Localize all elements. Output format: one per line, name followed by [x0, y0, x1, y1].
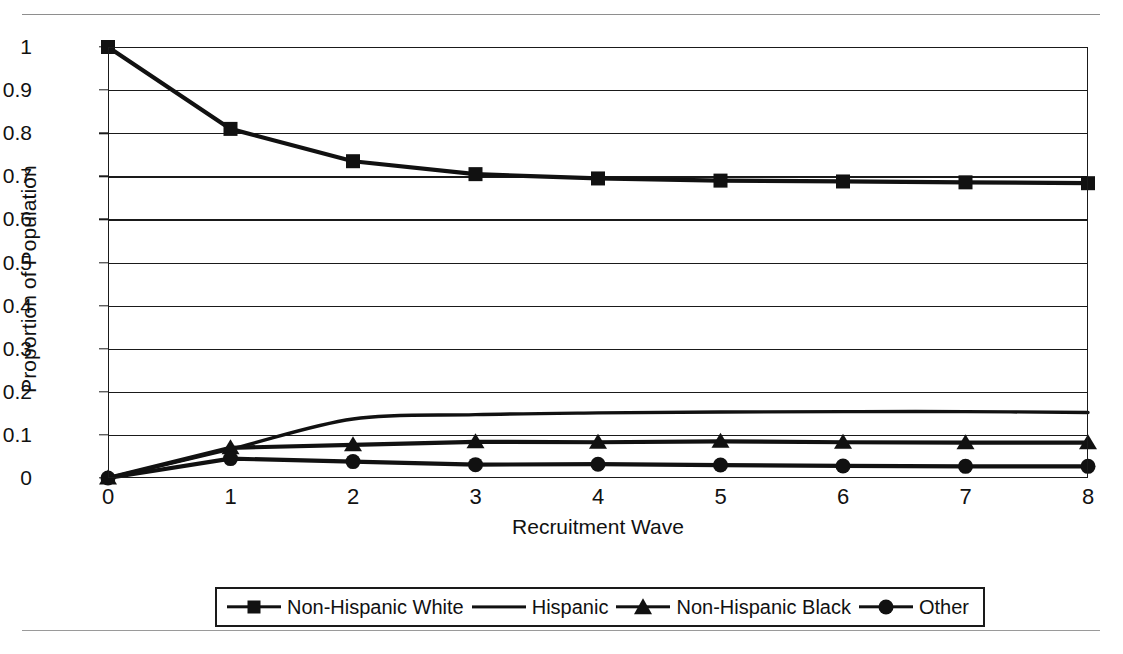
x-axis-tick-label: 2 [323, 484, 383, 510]
x-axis-tick-label: 6 [813, 484, 873, 510]
series-line [108, 47, 1088, 183]
legend-key-square-icon [225, 596, 283, 618]
y-axis-tick-label: 0.5 [0, 251, 32, 275]
y-axis-tick-label: 0.2 [0, 380, 32, 404]
data-point-marker [713, 458, 728, 473]
page-rule-top [22, 14, 1100, 15]
data-point-marker [836, 174, 850, 188]
x-axis-tick-label: 1 [201, 484, 261, 510]
data-point-marker [468, 457, 483, 472]
data-point-marker [714, 174, 728, 188]
y-axis-tick-label: 0.4 [0, 294, 32, 318]
y-axis-tick-label: 0.6 [0, 207, 32, 231]
series-other [101, 451, 1096, 485]
x-axis-tick-label: 4 [568, 484, 628, 510]
y-axis-tick-label: 0.7 [0, 164, 32, 188]
y-axis-tick-mark [99, 434, 108, 435]
triangle-marker-icon [634, 598, 652, 614]
data-point-marker [1081, 459, 1096, 474]
y-axis-tick-mark [99, 348, 108, 349]
line-chart: Proportion of Population Recruitment Wav… [0, 20, 1123, 620]
x-axis-tick-label: 8 [1058, 484, 1118, 510]
series-paths [108, 47, 1088, 478]
y-axis-tick-mark [99, 391, 108, 392]
data-point-marker [959, 175, 973, 189]
circle-marker-icon [878, 600, 893, 615]
plot-area [108, 47, 1088, 478]
data-point-marker [346, 154, 360, 168]
y-axis-tick-label: 0 [0, 466, 32, 490]
page-rule-bottom [22, 630, 1100, 631]
legend: Non-Hispanic WhiteHispanicNon-Hispanic B… [215, 587, 985, 627]
figure-page: Proportion of Population Recruitment Wav… [0, 0, 1123, 654]
data-point-marker [469, 167, 483, 181]
y-axis-tick-mark [99, 176, 108, 177]
y-axis-tick-label: 0.1 [0, 423, 32, 447]
legend-label: Non-Hispanic White [283, 596, 470, 619]
y-axis-tick-label: 0.9 [0, 78, 32, 102]
data-point-marker [223, 451, 238, 466]
y-axis-tick-label: 1 [0, 35, 32, 59]
data-point-marker [836, 458, 851, 473]
data-point-marker [346, 454, 361, 469]
y-axis-tick-label: 0.3 [0, 337, 32, 361]
y-axis-tick-mark [99, 262, 108, 263]
legend-key-circle-icon [857, 596, 915, 618]
legend-key-none-icon [470, 596, 528, 618]
y-axis-tick-mark [99, 305, 108, 306]
x-axis-tick-label: 5 [691, 484, 751, 510]
legend-entry: Non-Hispanic Black [614, 596, 857, 619]
legend-entry: Hispanic [470, 596, 615, 619]
data-point-marker [1081, 176, 1095, 190]
x-axis-title: Recruitment Wave [108, 515, 1088, 539]
data-point-marker [958, 459, 973, 474]
data-point-marker [591, 457, 606, 472]
legend-key-triangle-icon [614, 596, 672, 618]
legend-entry: Other [857, 596, 975, 619]
data-point-marker [224, 122, 238, 136]
x-axis-tick-label: 7 [936, 484, 996, 510]
y-axis-tick-label: 0.8 [0, 121, 32, 145]
legend-key-line [472, 605, 526, 608]
y-axis-tick-mark [99, 89, 108, 90]
legend-label: Hispanic [528, 596, 615, 619]
y-axis-tick-mark [99, 219, 108, 220]
y-axis-tick-mark [99, 132, 108, 133]
x-axis-tick-label: 3 [446, 484, 506, 510]
series-non-hispanic-white [101, 40, 1095, 190]
square-marker-icon [248, 601, 261, 614]
legend-entry: Non-Hispanic White [225, 596, 470, 619]
data-point-marker [101, 40, 115, 54]
x-axis-tick-label: 0 [78, 484, 138, 510]
legend-label: Non-Hispanic Black [672, 596, 857, 619]
data-point-marker [101, 471, 116, 486]
legend-label: Other [915, 596, 975, 619]
data-point-marker [591, 171, 605, 185]
